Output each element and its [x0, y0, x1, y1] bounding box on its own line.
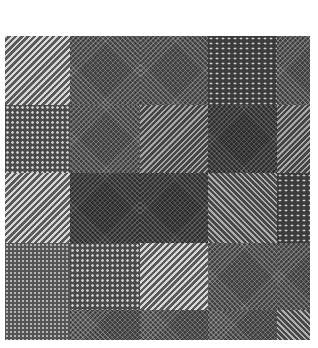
- texture-tile: [5, 173, 70, 243]
- texture-tile: [277, 243, 310, 310]
- texture-tile: [140, 173, 208, 243]
- texture-tile: [70, 173, 140, 243]
- texture-tile: [208, 310, 277, 340]
- texture-tile: [70, 105, 140, 173]
- texture-tile: [140, 36, 208, 105]
- texture-tile: [140, 105, 208, 173]
- texture-tile: [277, 105, 310, 173]
- texture-tile: [277, 173, 310, 243]
- texture-tile: [277, 36, 310, 105]
- texture-tile: [208, 105, 277, 173]
- texture-tile: [5, 105, 70, 173]
- texture-collage: [5, 36, 310, 340]
- texture-tile: [208, 243, 277, 310]
- texture-tile: [277, 310, 310, 340]
- texture-tile: [70, 36, 140, 105]
- texture-tile: [5, 243, 70, 310]
- texture-tile: [5, 36, 70, 105]
- texture-tile: [208, 173, 277, 243]
- texture-tile: [5, 310, 70, 340]
- texture-tile: [140, 243, 208, 310]
- texture-tile: [208, 36, 277, 105]
- texture-tile: [70, 243, 140, 310]
- texture-tile: [70, 310, 140, 340]
- texture-tile: [140, 310, 208, 340]
